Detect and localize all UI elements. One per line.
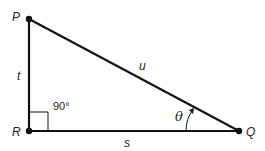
- vertex-r-dot: [26, 128, 32, 134]
- vertex-q-label: Q: [246, 125, 255, 139]
- vertex-p-label: P: [12, 10, 20, 24]
- vertex-q-dot: [236, 128, 242, 134]
- right-angle-label: 90°: [53, 100, 70, 112]
- vertex-r-label: R: [12, 125, 21, 139]
- vertex-p-dot: [26, 16, 32, 22]
- side-s-label: s: [124, 136, 130, 150]
- side-t-label: t: [17, 69, 21, 83]
- right-angle-marker: [29, 112, 48, 131]
- theta-arc: [186, 110, 193, 131]
- side-u-label: u: [139, 59, 146, 73]
- theta-arrowhead: [189, 108, 194, 114]
- right-triangle-diagram: P R Q t s u 90° θ: [0, 0, 265, 151]
- side-pq: [29, 19, 239, 131]
- theta-label: θ: [175, 109, 183, 124]
